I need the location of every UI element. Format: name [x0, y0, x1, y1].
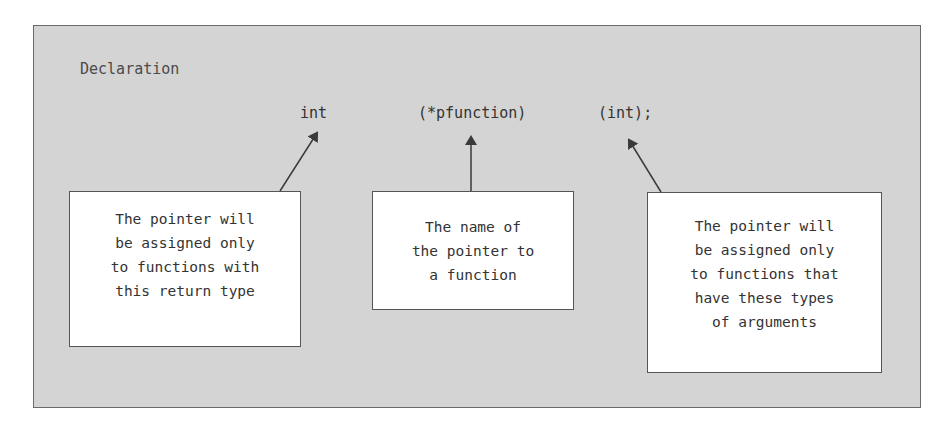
arrow-return-type	[280, 133, 317, 191]
callout-arg-types: The pointer will be assigned only to fun…	[647, 192, 882, 373]
callout-return-type: The pointer will be assigned only to fun…	[69, 191, 301, 347]
callout-arg-types-text: The pointer will be assigned only to fun…	[690, 214, 838, 334]
arrow-arg-types	[629, 140, 661, 192]
callout-pointer-name: The name of the pointer to a function	[372, 191, 574, 310]
callout-return-type-text: The pointer will be assigned only to fun…	[111, 207, 259, 303]
callout-pointer-name-text: The name of the pointer to a function	[412, 215, 534, 287]
